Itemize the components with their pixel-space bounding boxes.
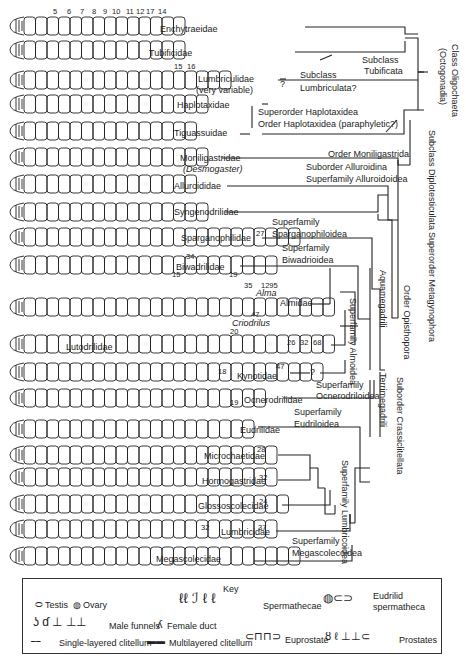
family-label-enchytraeidae: Enchytraeidae: [160, 24, 218, 34]
worm-body-lutodrilidae: [10, 335, 335, 353]
class-octogonadia-label: (Octogonadia): [438, 48, 448, 105]
segment-callout: 34: [186, 252, 194, 261]
segment-number: 17: [146, 7, 154, 16]
segment-number: 12: [136, 7, 144, 16]
segment-callout: 24: [259, 497, 267, 506]
key-ovary: Ovary: [83, 600, 107, 610]
segment-callout: 1295: [261, 281, 278, 290]
superorder-haplotaxidea-label: Superorder Haplotaxidea: [258, 107, 358, 117]
worm-body-moniligastridae: [10, 148, 208, 166]
superfamily-biwadrioidea-label-2: Biwadrioidea: [282, 255, 334, 265]
key-male-funnels: Male funnels: [109, 621, 160, 631]
key-single-clitellum: Single-layered clitellum: [59, 638, 152, 648]
key-testis: Testis: [45, 600, 68, 610]
worm-body-tiguassuidae: [10, 122, 197, 140]
key-eudrilid-2: spermatheca: [373, 602, 425, 612]
segment-callout: 37: [258, 523, 266, 532]
segment-number: 11: [126, 7, 134, 16]
superfamily-alluroidoidea-label: Superfamily Alluroidoidea: [306, 174, 408, 184]
family-label-hormogastridae: Hormogastridae: [202, 476, 266, 486]
spermathecae-icon: ℓℓ ℐ ℓ ℓ: [179, 593, 216, 603]
key-multi-clitellum: Multilayered clitellum: [169, 638, 253, 648]
segment-number: 6: [67, 7, 71, 16]
superorder-metagynophora-label: Superorder Metagynophora: [427, 232, 437, 342]
eudrilid-spermatheca-icon: ◍⊂⊃: [323, 593, 353, 603]
segment-number: 9: [103, 7, 107, 16]
subclass-lumbriculata-label-2: Lumbriculata?: [300, 83, 357, 93]
segment-callout: 47: [276, 362, 284, 371]
segment-callout: 28: [257, 445, 265, 454]
family-label-eudrilidae: Eudrilidae: [240, 425, 280, 435]
multi-clitellum-icon: ▬▬: [147, 636, 165, 646]
segment-number: 14: [158, 7, 166, 16]
subclass-diplotesticulata-label: Subclass Diplotesticulata: [427, 130, 437, 230]
suborder-crassiclitellata-label: Suborder Crassiclitellata: [395, 377, 405, 475]
superfamily-sparganophiloidea-label-1: Superfamily: [272, 217, 320, 227]
key-title: Key: [223, 584, 239, 594]
legend-key: Key ⬭ Testis ◍ Ovary ℓℓ ℐ ℓ ℓ Spermathec…: [22, 578, 442, 654]
superfamily-sparganophiloidea-label-2: Sparganophiloidea: [272, 229, 347, 239]
order-opisthopora-label: Order Opisthopora: [402, 285, 412, 360]
segment-callout: 47: [251, 310, 259, 319]
order-moniligastrida-label: Order Moniligastrida: [328, 149, 409, 159]
superfamily-lumbricoidea-label: Superfamily Lumbricoidea: [340, 460, 350, 564]
family-label-kynotidae: Kynotidae: [237, 371, 277, 381]
family-label-microchaetidae: Microchaetidae: [204, 451, 265, 461]
subclass-tubificata-label-1: Subclass: [362, 55, 399, 65]
segment-number: 5: [53, 7, 57, 16]
worm-body-megascolecidae: [10, 547, 300, 565]
segment-callout: 15: [172, 270, 180, 279]
segment-callout: 19: [230, 398, 238, 407]
family-label-alluroididae: Alluroididae: [174, 181, 221, 191]
family-label-syngenodrilidae: Syngenodrilidae: [174, 207, 239, 217]
family-label-lutodrilidae: Lutodrilidae: [66, 342, 113, 352]
family-label-tubificidae: Tubificidae: [149, 48, 192, 58]
euprostate-icon: ⊂⊓⊓⊃: [245, 631, 281, 641]
oligochaeta-phylogeny-diagram: 5 6 7 8 9 10 11 12 17 14 Enchytraeidae T…: [0, 0, 466, 661]
family-label-moniligastridae: Moniligastridae: [180, 153, 241, 163]
segment-callout: 32: [259, 473, 267, 482]
segment-callout: 16: [187, 62, 195, 71]
male-funnels-icon: ʖ ɗ ⊥ ⊥⊥: [33, 617, 86, 627]
question-mark: ?: [310, 367, 315, 377]
superfamily-ocnerodriloidea-label-2: Ocnerodriloidea: [316, 391, 380, 401]
segment-callout: 27: [256, 229, 264, 238]
superfamily-eudriloidea-label-2: Eudriloidea: [294, 419, 339, 429]
subclass-lumbriculata-label-1: Subclass: [300, 70, 337, 80]
order-haplotaxida-label: Order Haplotaxidea (paraphyletic?): [258, 119, 398, 129]
key-female-duct: Female duct: [167, 621, 217, 631]
segment-callout: 68: [313, 338, 321, 347]
superfamily-almoidea-label: Superfamily Almoidea: [348, 298, 358, 385]
worm-body-ocnerodrilidae: [10, 389, 266, 407]
single-clitellum-icon: ⎯⎯: [31, 636, 41, 646]
family-label-ocnerodrilidae: Ocnerodrilidae: [244, 395, 303, 405]
segment-callout: 18: [218, 367, 226, 376]
question-mark: ?: [280, 79, 285, 89]
family-label-biwadrilidae: Biwadrilidae: [176, 262, 225, 272]
key-eudrilid-1: Eudrilid: [373, 591, 403, 601]
family-label-almidae: Almidae: [280, 298, 313, 308]
segment-number: 7: [80, 7, 84, 16]
genus-label-desmogaster: (Desmogaster): [183, 164, 243, 174]
family-label-haplotaxidae: Haplotaxidae: [177, 100, 230, 110]
family-label-lumbriculidae: Lumbriculidae: [198, 74, 254, 84]
family-label-tiguassuidae: Tiguassuidae: [174, 128, 227, 138]
segment-callout: 35: [244, 281, 252, 290]
superfamily-eudriloidea-label-1: Superfamily: [294, 407, 342, 417]
ovary-icon: ◍: [73, 600, 81, 610]
female-duct-icon: ʎ: [157, 619, 163, 629]
key-spermathecae: Spermathecae: [263, 601, 322, 611]
superfamily-megascolecoidea-label-2: Megascolecoidea: [292, 548, 362, 558]
suborder-alluroidina-label: Suborder Alluroidina: [306, 162, 387, 172]
prostates-icon: ȣ ℓ ⊥⊥⊂: [325, 631, 370, 641]
segment-callout: 20: [230, 327, 238, 336]
key-prostates: Prostates: [399, 635, 437, 645]
segment-callout: 32: [201, 523, 209, 532]
segment-callout: 19: [229, 270, 237, 279]
segment-callout: 32: [300, 338, 308, 347]
testis-icon: ⬭: [35, 600, 43, 610]
segment-number: 10: [112, 7, 120, 16]
segment-number: 8: [92, 7, 96, 16]
subclass-tubificata-label-2: Tubificata: [364, 66, 403, 76]
aquamegadrili-label: Aquamegadrili: [378, 270, 388, 328]
